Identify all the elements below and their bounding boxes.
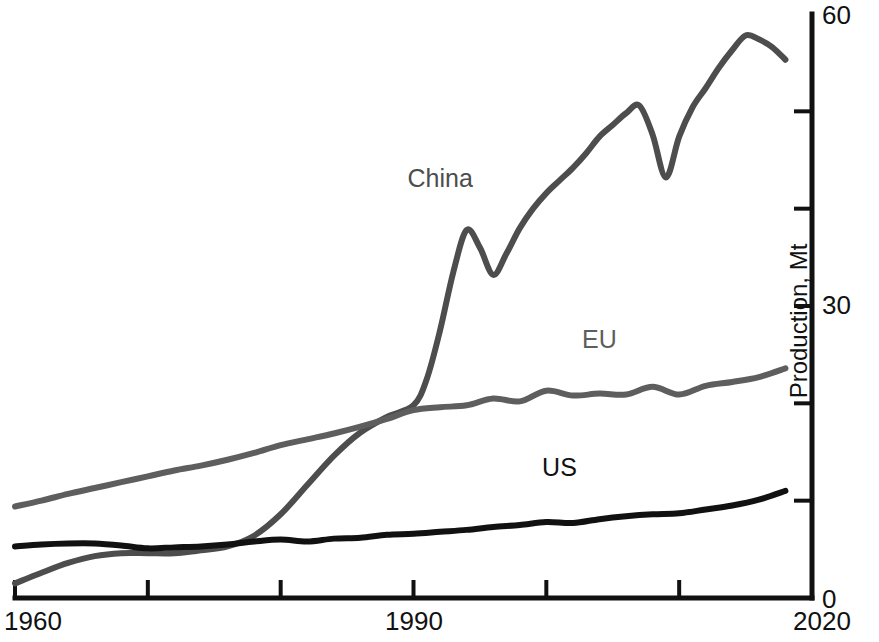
chart-container: 1960 1990 2020 0 30 60 Production, Mt Ch… (0, 0, 879, 642)
series-line-us (15, 491, 785, 548)
x-tick-label-1960: 1960 (4, 608, 62, 634)
y-tick-label-60: 60 (822, 2, 851, 28)
series-label-us: US (542, 455, 577, 480)
series-line-eu (15, 368, 785, 506)
series-label-china: China (408, 166, 473, 191)
x-axis-ticks (15, 580, 812, 598)
y-tick-label-0: 0 (822, 586, 836, 612)
x-tick-label-1990: 1990 (385, 608, 443, 634)
chart-plot-area (0, 0, 879, 642)
y-tick-label-30: 30 (822, 292, 851, 318)
data-series-group (15, 35, 785, 583)
series-label-eu: EU (582, 327, 617, 352)
y-axis-title: Production, Mt (786, 244, 814, 399)
series-line-china (15, 35, 785, 583)
